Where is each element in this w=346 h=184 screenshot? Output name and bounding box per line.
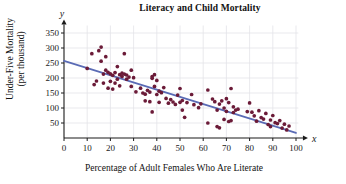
tick-marks (61, 33, 296, 141)
svg-text:70: 70 (222, 143, 232, 153)
chart-figure: Literacy and Child Mortality Under-Five … (0, 0, 346, 184)
svg-text:x: x (311, 133, 317, 144)
svg-text:30: 30 (129, 143, 139, 153)
svg-text:350: 350 (46, 28, 60, 38)
svg-text:40: 40 (152, 143, 162, 153)
svg-text:0: 0 (62, 143, 67, 153)
scatter-plot: 0102030405060708090100501001502002503003… (0, 0, 346, 184)
svg-text:100: 100 (46, 103, 60, 113)
svg-text:20: 20 (106, 143, 116, 153)
data-points (85, 45, 291, 131)
svg-text:50: 50 (176, 143, 186, 153)
axes (61, 20, 308, 141)
svg-text:200: 200 (46, 73, 60, 83)
svg-text:80: 80 (245, 143, 255, 153)
svg-text:y: y (59, 8, 65, 19)
svg-text:150: 150 (46, 88, 60, 98)
tick-labels: 0102030405060708090100501001502002503003… (46, 28, 304, 153)
svg-text:10: 10 (83, 143, 93, 153)
svg-text:300: 300 (46, 43, 60, 53)
svg-text:90: 90 (268, 143, 278, 153)
svg-text:100: 100 (289, 143, 303, 153)
svg-text:60: 60 (199, 143, 209, 153)
svg-text:50: 50 (50, 118, 60, 128)
svg-text:250: 250 (46, 58, 60, 68)
gridlines (64, 26, 298, 139)
